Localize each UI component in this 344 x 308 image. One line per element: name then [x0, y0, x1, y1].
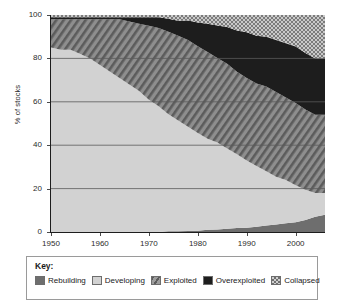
chart-legend: Key: RebuildingDevelopingExploitedOverex…: [26, 256, 318, 300]
legend-item-developing[interactable]: Developing: [92, 276, 145, 285]
y-tick-label-80: 80: [8, 53, 42, 62]
x-tick-label-1960: 1960: [80, 239, 120, 248]
x-tick-label-1990: 1990: [227, 239, 267, 248]
y-tick-label-60: 60: [8, 97, 42, 106]
x-axis-line: [50, 232, 325, 233]
legend-items: RebuildingDevelopingExploitedOverexploit…: [35, 276, 313, 285]
legend-label: Rebuilding: [48, 276, 86, 285]
y-axis-line: [50, 15, 51, 232]
plot-region: [51, 15, 325, 232]
y-tick-label-0: 0: [8, 227, 42, 236]
x-tick-label-1980: 1980: [178, 239, 218, 248]
legend-title: Key:: [35, 261, 53, 271]
legend-label: Collapsed: [284, 276, 320, 285]
exploited-swatch: [151, 276, 161, 285]
legend-item-exploited[interactable]: Exploited: [151, 276, 197, 285]
legend-item-rebuilding[interactable]: Rebuilding: [35, 276, 86, 285]
legend-item-collapsed[interactable]: Collapsed: [271, 276, 320, 285]
x-tick-label-1970: 1970: [129, 239, 169, 248]
legend-label: Exploited: [164, 276, 197, 285]
stacked-area-svg: [51, 15, 325, 232]
legend-label: Overexploited: [216, 276, 265, 285]
y-tick-label-100: 100: [8, 10, 42, 19]
x-tick-label-1950: 1950: [31, 239, 71, 248]
legend-label: Developing: [105, 276, 145, 285]
x-tick-label-2000: 2000: [276, 239, 316, 248]
rebuilding-swatch: [35, 276, 45, 285]
chart-area: % of stocks 020406080100 195019601970198…: [0, 0, 344, 250]
collapsed-swatch: [271, 276, 281, 285]
chart-figure: % of stocks 020406080100 195019601970198…: [0, 0, 344, 308]
developing-swatch: [92, 276, 102, 285]
y-tick-label-20: 20: [8, 184, 42, 193]
y-tick-label-40: 40: [8, 140, 42, 149]
overexploited-swatch: [203, 276, 213, 285]
legend-item-overexploited[interactable]: Overexploited: [203, 276, 265, 285]
